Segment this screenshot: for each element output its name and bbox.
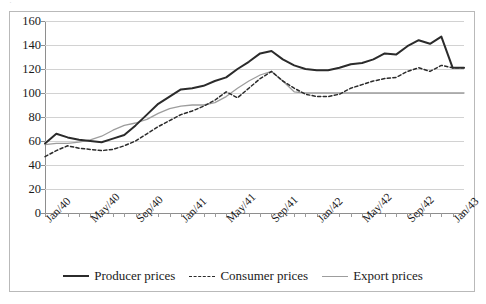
legend-item-export-prices: Export prices <box>322 268 423 284</box>
x-axis-tick-mark <box>158 213 159 217</box>
x-axis-tick-mark <box>79 213 80 217</box>
series-export-prices <box>45 71 464 144</box>
x-axis-tick-mark <box>396 213 397 217</box>
legend-item-producer-prices: Producer prices <box>63 268 175 284</box>
x-axis-tick-mark <box>260 213 261 217</box>
y-axis-tick-mark <box>41 93 45 94</box>
top-fragment: · <box>9 0 13 7</box>
legend-swatch-gray-icon <box>322 276 348 277</box>
legend-swatch-dashed-icon <box>189 276 215 277</box>
x-axis-tick-mark <box>215 213 216 217</box>
y-axis-tick-mark <box>41 21 45 22</box>
y-axis-labels: 020406080100120140160 <box>0 21 41 213</box>
x-axis-tick-mark <box>441 213 442 217</box>
x-axis-tick-mark <box>339 213 340 217</box>
series-consumer-prices <box>45 65 464 156</box>
x-axis-tick-mark <box>385 213 386 217</box>
series-producer-prices <box>45 37 464 144</box>
x-axis-tick-mark <box>170 213 171 217</box>
x-axis-tick-mark <box>113 213 114 217</box>
y-axis-tick-label: 60 <box>29 134 42 149</box>
chart-legend: Producer prices Consumer prices Export p… <box>0 268 486 284</box>
legend-label-export-prices: Export prices <box>353 268 423 284</box>
legend-label-producer-prices: Producer prices <box>94 268 175 284</box>
y-axis-tick-label: 80 <box>29 110 42 125</box>
y-axis-tick-label: 120 <box>22 62 41 77</box>
y-axis-tick-label: 160 <box>22 14 41 29</box>
x-axis-tick-mark <box>351 213 352 217</box>
x-axis-tick-mark <box>124 213 125 217</box>
x-axis-line <box>45 213 464 214</box>
x-axis-tick-mark <box>305 213 306 217</box>
y-axis-tick-mark <box>41 69 45 70</box>
y-axis-tick-mark <box>41 189 45 190</box>
x-axis-tick-mark <box>249 213 250 217</box>
x-axis-tick-mark <box>430 213 431 217</box>
legend-swatch-solid-icon <box>63 275 89 277</box>
legend-item-consumer-prices: Consumer prices <box>189 268 308 284</box>
x-axis-tick-mark <box>204 213 205 217</box>
y-axis-tick-label: 20 <box>29 182 42 197</box>
x-axis-tick-mark <box>294 213 295 217</box>
y-axis-tick-label: 140 <box>22 38 41 53</box>
y-axis-tick-mark <box>41 45 45 46</box>
chart-container: · 020406080100120140160 Producer prices … <box>0 0 486 304</box>
x-axis-tick-mark <box>68 213 69 217</box>
legend-label-consumer-prices: Consumer prices <box>220 268 308 284</box>
y-axis-tick-mark <box>41 141 45 142</box>
y-axis-tick-label: 100 <box>22 86 41 101</box>
y-axis-tick-mark <box>41 165 45 166</box>
series-layer <box>45 21 464 213</box>
y-axis-tick-label: 40 <box>29 158 42 173</box>
y-axis-tick-mark <box>41 117 45 118</box>
